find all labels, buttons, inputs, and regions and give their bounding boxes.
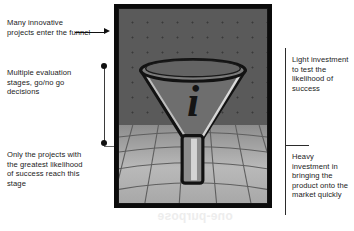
right-rail-line — [285, 48, 286, 215]
right-divider-tick — [285, 145, 309, 146]
watermark-text: one-purpose — [120, 209, 270, 223]
annotation-many-innovative-projects: Many innovative projects enter the funne… — [7, 18, 91, 37]
annotation-light-investment: Light investment to test the likelihood … — [292, 55, 352, 93]
funnel-illustration-frame: i — [114, 4, 272, 208]
bracket-line-evaluation-stages — [104, 66, 105, 143]
diagram-root: Many innovative projects enter the funne… — [0, 0, 354, 231]
annotation-multiple-evaluation-stages: Multiple evaluation stages, go/no go dec… — [7, 68, 93, 97]
annotation-only-greatest-likelihood: Only the projects with the greatest like… — [7, 150, 91, 188]
information-symbol: i — [187, 80, 199, 124]
annotation-heavy-investment: Heavy investment in bringing the product… — [292, 152, 352, 200]
bracket-dot-top-icon — [101, 63, 107, 69]
arrow-line-to-funnel — [75, 32, 105, 33]
arrow-head-icon — [104, 28, 110, 34]
funnel-illustration-canvas: i — [118, 8, 268, 204]
